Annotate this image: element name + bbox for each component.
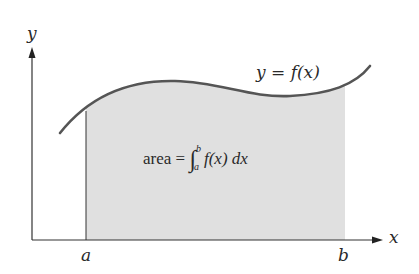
- area-formula-label: area = ∫baf(x) dx: [143, 144, 248, 170]
- y-axis-arrow-icon: [29, 47, 36, 58]
- area-equals: =: [176, 149, 186, 168]
- curve-label-lhs: y: [256, 62, 266, 82]
- curve-label-equals: =: [271, 62, 285, 82]
- x-axis-arrow-icon: [372, 237, 383, 244]
- area-word: area: [143, 149, 171, 168]
- x-axis-label: x: [389, 229, 399, 246]
- differential: dx: [232, 149, 248, 168]
- bound-a-label: a: [81, 247, 91, 264]
- curve-label-rhs: f(x): [291, 62, 320, 82]
- integrand: f(x): [204, 149, 228, 168]
- diagram-canvas: [0, 0, 419, 274]
- upper-limit: b: [196, 144, 201, 154]
- y-axis-label: y: [27, 25, 37, 42]
- curve-equation-label: y = f(x): [256, 64, 320, 81]
- bound-b-label: b: [338, 247, 349, 264]
- integral-limits: ba: [196, 150, 204, 170]
- lower-limit: a: [194, 162, 199, 172]
- area-under-curve-diagram: y x a b y = f(x) area = ∫baf(x) dx: [0, 0, 419, 274]
